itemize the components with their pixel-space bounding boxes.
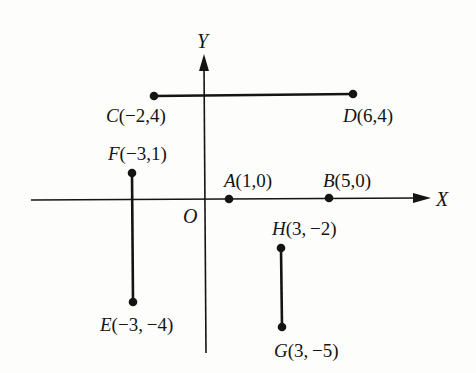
label-point-e: E(−3, −4) — [100, 315, 173, 334]
segment-fe — [132, 173, 133, 302]
label-point-a: A(1,0) — [224, 171, 272, 190]
label-point-h: H(3, −2) — [272, 219, 337, 238]
label-point-d: D(6,4) — [343, 106, 393, 125]
point-h-coords: (3, −2) — [286, 218, 337, 239]
point-f-name: F — [108, 143, 120, 164]
point-d — [349, 90, 358, 99]
point-c-name: C — [106, 105, 119, 126]
x-axis-arrowhead-icon — [413, 193, 431, 203]
point-d-coords: (6,4) — [357, 105, 393, 126]
point-a-name: A — [224, 170, 236, 191]
point-g-coords: (3, −5) — [288, 340, 339, 361]
segment-hg — [281, 248, 282, 327]
point-h-name: H — [272, 218, 286, 239]
y-axis-label: Y — [197, 31, 208, 51]
point-d-name: D — [343, 105, 357, 126]
label-point-g: G(3, −5) — [274, 341, 339, 360]
y-axis-arrowhead-icon — [199, 54, 209, 71]
label-point-c: C(−2,4) — [106, 106, 166, 125]
point-f — [128, 169, 137, 178]
point-c-coords: (−2,4) — [119, 105, 166, 126]
point-h — [277, 244, 286, 253]
point-e — [129, 298, 138, 307]
point-a — [225, 195, 234, 204]
point-e-coords: (−3, −4) — [112, 314, 174, 335]
point-b-name: B — [323, 170, 335, 191]
point-g — [278, 323, 287, 332]
label-point-f: F(−3,1) — [108, 144, 167, 163]
point-e-name: E — [100, 314, 112, 335]
point-b — [325, 194, 334, 203]
x-axis-label: X — [436, 189, 448, 209]
segment-cd — [154, 94, 353, 96]
point-a-coords: (1,0) — [236, 170, 272, 191]
point-b-coords: (5,0) — [335, 170, 371, 191]
label-point-b: B(5,0) — [323, 171, 371, 190]
point-g-name: G — [274, 340, 288, 361]
origin-label: O — [183, 206, 197, 226]
point-c — [150, 92, 159, 101]
point-f-coords: (−3,1) — [120, 143, 167, 164]
y-axis — [199, 54, 209, 353]
coordinate-diagram: Y X O C(−2,4) D(6,4) F(−3,1) A(1,0) B(5,… — [0, 0, 476, 373]
